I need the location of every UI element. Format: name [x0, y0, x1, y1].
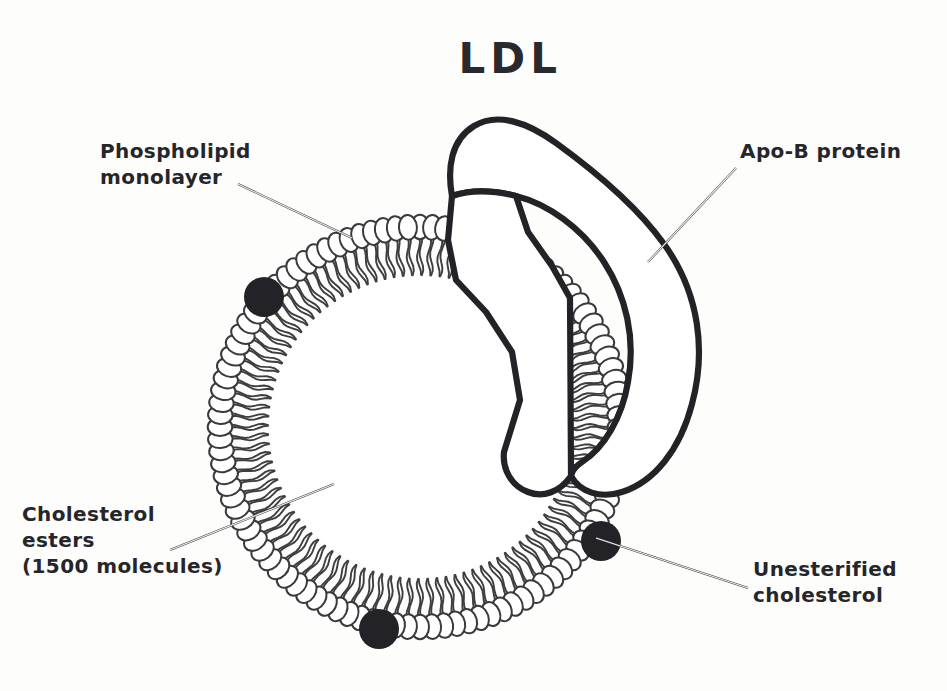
leader-line-highlight-apob — [648, 168, 736, 262]
label-chol-esters-line2: esters — [22, 529, 95, 553]
unesterified-cholesterol-right — [581, 521, 621, 561]
leader-line-highlight-unesterified — [596, 538, 748, 588]
unesterified-cholesterol-upper-left — [244, 277, 284, 317]
figure-canvas: LDL Phospholipid monolayer Apo-B protein… — [0, 0, 947, 691]
figure-title: LDL — [459, 34, 562, 84]
label-chol-esters-line3: (1500 molecules) — [22, 555, 223, 579]
label-chol-esters-line1: Cholesterol — [22, 503, 155, 527]
label-unesterified-line1: Unesterified — [753, 558, 897, 582]
phospholipid-headgroup — [398, 215, 417, 241]
leader-line-highlight-phospholipid — [238, 184, 352, 238]
unesterified-cholesterol-bottom — [359, 609, 399, 649]
label-unesterified-line2: cholesterol — [753, 584, 883, 608]
label-phospholipid-line1: Phospholipid — [100, 140, 251, 164]
label-phospholipid-line2: monolayer — [100, 166, 222, 190]
label-apob-line1: Apo-B protein — [740, 140, 901, 164]
